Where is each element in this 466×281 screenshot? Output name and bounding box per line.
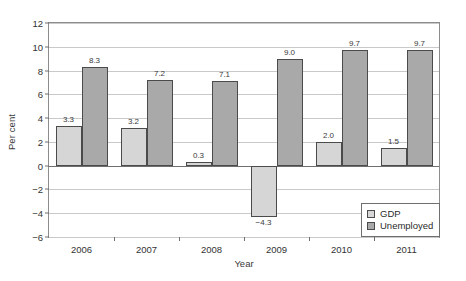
y-tick-mark bbox=[45, 118, 49, 119]
legend-label-gdp: GDP bbox=[380, 208, 401, 219]
y-tick-mark bbox=[45, 189, 49, 190]
y-tick-mark bbox=[45, 94, 49, 95]
bar-value-label: 8.3 bbox=[89, 56, 100, 65]
y-tick-label: −2 bbox=[32, 184, 43, 195]
x-tick-mark bbox=[244, 237, 245, 241]
x-tick-label: 2011 bbox=[396, 244, 416, 255]
y-tick-label: 10 bbox=[32, 41, 43, 52]
x-tick-label: 2007 bbox=[136, 244, 157, 255]
bar-gdp-2011[interactable] bbox=[381, 148, 407, 166]
bar-gdp-2008[interactable] bbox=[186, 162, 212, 166]
x-tick-label: 2009 bbox=[266, 244, 287, 255]
legend-swatch-icon-gdp bbox=[367, 210, 375, 218]
gridline bbox=[49, 47, 439, 48]
y-tick-label: 8 bbox=[38, 65, 43, 76]
bar-value-label: 1.5 bbox=[388, 137, 399, 146]
bar-value-label: 2.0 bbox=[323, 131, 334, 140]
chart-legend: GDP Unemployed bbox=[361, 203, 440, 237]
x-tick-label: 2010 bbox=[331, 244, 352, 255]
bar-unemployed-2006[interactable] bbox=[82, 67, 108, 166]
y-tick-label: −4 bbox=[32, 208, 43, 219]
bar-value-label: 9.7 bbox=[414, 39, 425, 48]
x-tick-mark bbox=[179, 237, 180, 241]
y-tick-mark bbox=[45, 23, 49, 24]
x-tick-mark bbox=[374, 237, 375, 241]
x-axis-title: Year bbox=[48, 258, 440, 269]
x-tick-mark bbox=[114, 237, 115, 241]
bar-value-label: 0.3 bbox=[193, 151, 204, 160]
bar-gdp-2006[interactable] bbox=[56, 126, 82, 165]
x-tick-label: 2006 bbox=[71, 244, 92, 255]
y-tick-label: 4 bbox=[38, 113, 43, 124]
gridline bbox=[49, 94, 439, 95]
x-tick-mark bbox=[309, 237, 310, 241]
y-tick-label: 0 bbox=[38, 160, 43, 171]
bar-unemployed-2011[interactable] bbox=[407, 50, 433, 165]
x-tick-label: 2008 bbox=[201, 244, 222, 255]
bar-value-label: 7.2 bbox=[154, 69, 165, 78]
bar-value-label: 9.0 bbox=[284, 48, 295, 57]
bar-unemployed-2009[interactable] bbox=[277, 59, 303, 166]
legend-swatch-icon-unemployed bbox=[367, 222, 375, 230]
bar-value-label: 7.1 bbox=[219, 70, 230, 79]
bar-gdp-2007[interactable] bbox=[121, 128, 147, 166]
gridline bbox=[49, 71, 439, 72]
legend-label-unemployed: Unemployed bbox=[380, 220, 433, 231]
y-tick-mark bbox=[45, 70, 49, 71]
bar-unemployed-2008[interactable] bbox=[212, 81, 238, 165]
y-tick-label: −6 bbox=[32, 232, 43, 243]
bar-gdp-2009[interactable] bbox=[251, 166, 277, 217]
gridline bbox=[49, 118, 439, 119]
bar-value-label: −4.3 bbox=[256, 218, 272, 227]
y-tick-mark bbox=[45, 141, 49, 142]
gridline bbox=[49, 23, 439, 24]
legend-item-unemployed[interactable]: Unemployed bbox=[367, 220, 433, 231]
zero-line bbox=[49, 166, 439, 167]
gridline bbox=[49, 142, 439, 143]
y-tick-mark bbox=[45, 165, 49, 166]
bar-unemployed-2010[interactable] bbox=[342, 50, 368, 165]
y-tick-label: 12 bbox=[32, 18, 43, 29]
bar-value-label: 3.3 bbox=[63, 115, 74, 124]
legend-item-gdp[interactable]: GDP bbox=[367, 208, 433, 219]
y-tick-label: 2 bbox=[38, 136, 43, 147]
gridline bbox=[49, 189, 439, 190]
bar-chart: Per cent 121086420−2−4−620063.38.320073.… bbox=[0, 0, 466, 281]
y-tick-mark bbox=[45, 213, 49, 214]
bar-gdp-2010[interactable] bbox=[316, 142, 342, 166]
y-tick-mark bbox=[45, 237, 49, 238]
y-tick-label: 6 bbox=[38, 89, 43, 100]
y-tick-mark bbox=[45, 46, 49, 47]
y-axis-title: Per cent bbox=[6, 92, 17, 172]
bar-value-label: 3.2 bbox=[128, 117, 139, 126]
bar-unemployed-2007[interactable] bbox=[147, 80, 173, 166]
bar-value-label: 9.7 bbox=[349, 39, 360, 48]
